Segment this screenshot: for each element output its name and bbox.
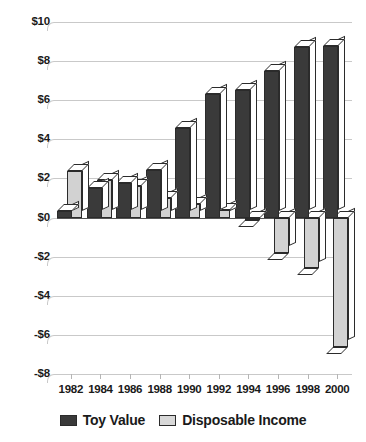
bar-bottom-face [238, 220, 260, 227]
bar-disposable-income-1994 [245, 218, 260, 221]
x-axis-tick [100, 374, 101, 379]
bar-bottom-face [267, 253, 289, 260]
bar-side-face [279, 61, 286, 211]
bar-toy-value-1998 [294, 47, 309, 217]
bar-front-face [333, 218, 348, 347]
bar-group-1988 [145, 22, 175, 374]
x-axis-tick [160, 374, 161, 379]
bar-side-face [309, 37, 316, 210]
y-axis-tick-label: -$8 [6, 367, 50, 379]
legend-item-disposable-income[interactable]: Disposable Income [159, 412, 306, 428]
x-axis-tick [278, 374, 279, 379]
y-axis-tick-label: -$2 [6, 250, 50, 262]
y-axis-tick-label: $8 [6, 54, 50, 66]
x-axis-tick [337, 374, 338, 379]
x-axis-tick [248, 374, 249, 379]
y-axis-tick-label: $10 [6, 15, 50, 27]
bar-side-face [250, 80, 257, 210]
bar-group-2000 [322, 22, 352, 374]
y-axis-tick-label: -$4 [6, 289, 50, 301]
bar-group-1992 [204, 22, 234, 374]
bar-front-face [146, 170, 161, 218]
bar-side-face [338, 36, 345, 210]
plot-area [56, 22, 352, 374]
bar-disposable-income-2000 [333, 218, 348, 347]
x-axis-tick [189, 374, 190, 379]
bar-toy-value-1992 [205, 94, 220, 217]
legend-label: Disposable Income [182, 412, 306, 428]
y-axis-labels: $10$8$6$4$2$0-$2-$4-$6-$8 [0, 22, 50, 374]
bar-front-face [294, 47, 309, 217]
bar-group-1982 [56, 22, 86, 374]
legend-item-toy-value[interactable]: Toy Value [60, 412, 146, 428]
legend-swatch-icon [60, 415, 77, 426]
bar-front-face [205, 94, 220, 217]
y-axis-tick-label: $4 [6, 132, 50, 144]
x-axis-label-2000: 2000 [317, 383, 357, 395]
bar-toy-value-1982 [57, 211, 72, 218]
bar-bottom-face [326, 347, 348, 354]
x-axis-tick [308, 374, 309, 379]
bar-group-1994 [234, 22, 264, 374]
bar-disposable-income-1998 [304, 218, 319, 269]
bar-group-1996 [263, 22, 293, 374]
bar-front-face [274, 218, 289, 253]
y-axis-tick-label: $0 [6, 211, 50, 223]
bar-chart: $10$8$6$4$2$0-$2-$4-$6-$8 19821984198619… [0, 0, 366, 442]
y-axis-tick-label: $6 [6, 93, 50, 105]
bar-side-face [220, 84, 227, 210]
bar-front-face [323, 46, 338, 217]
bar-toy-value-1996 [264, 71, 279, 218]
y-axis-tick-label: $2 [6, 171, 50, 183]
bar-front-face [264, 71, 279, 218]
bar-front-face [245, 218, 260, 221]
bar-series-container [56, 22, 352, 374]
bar-disposable-income-1996 [274, 218, 289, 253]
x-axis-tick [219, 374, 220, 379]
bar-group-1986 [115, 22, 145, 374]
bar-toy-value-2000 [323, 46, 338, 217]
bar-group-1990 [174, 22, 204, 374]
x-axis-labels: 1982198419861988199019921994199619982000 [40, 383, 366, 401]
y-axis-tick-label: -$6 [6, 328, 50, 340]
bar-group-1998 [293, 22, 323, 374]
x-axis-tick [71, 374, 72, 379]
bar-front-face [304, 218, 319, 269]
bar-front-face [57, 211, 72, 218]
bar-toy-value-1988 [146, 170, 161, 218]
bar-group-1984 [86, 22, 116, 374]
x-axis-tick [130, 374, 131, 379]
legend-swatch-icon [159, 415, 176, 426]
bar-side-face [348, 207, 355, 339]
legend-label: Toy Value [83, 412, 146, 428]
bar-side-face [190, 117, 197, 210]
chart-legend: Toy ValueDisposable Income [0, 409, 366, 431]
bar-bottom-face [297, 268, 319, 275]
